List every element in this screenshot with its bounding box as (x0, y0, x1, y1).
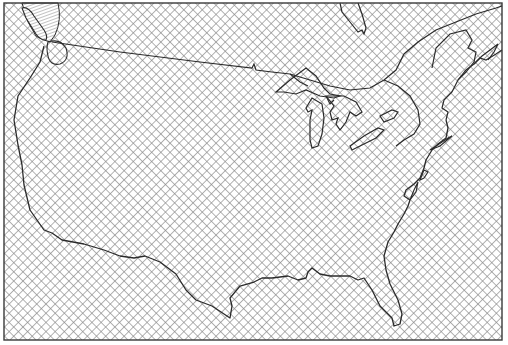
us-map (0, 0, 508, 345)
